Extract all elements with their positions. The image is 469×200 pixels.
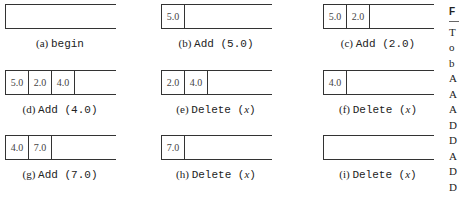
- caption-argument: (2.0): [376, 38, 416, 50]
- panel-caption: (h) Delete (x): [161, 168, 271, 181]
- side-line: A: [449, 87, 469, 103]
- panel-i: (i) Delete (x): [323, 135, 469, 197]
- caption-operation: Delete: [353, 104, 393, 116]
- side-text-fragment: F TobAAADDADDe: [449, 4, 469, 199]
- queue-cell: 4.0: [324, 71, 347, 94]
- panel-caption: (f) Delete (x): [323, 103, 433, 116]
- queue-cell: 5.0: [324, 5, 347, 28]
- queue-array: 5.02.0: [323, 4, 434, 29]
- caption-operation: Add: [356, 38, 376, 50]
- side-line: D: [449, 133, 469, 149]
- caption-operation: Add: [194, 38, 214, 50]
- panel-a: (a) begin: [5, 4, 155, 66]
- queue-cell: 4.0: [52, 71, 75, 94]
- queue-cell: 2.0: [162, 71, 185, 94]
- queue-array: 2.04.0: [161, 70, 272, 95]
- side-line: e: [449, 195, 469, 199]
- side-line: D: [449, 164, 469, 180]
- caption-label: (d): [23, 103, 39, 115]
- panel-f: 4.0(f) Delete (x): [323, 70, 469, 132]
- caption-operation: Add: [38, 104, 58, 116]
- queue-array: 7.0: [161, 135, 272, 160]
- caption-label: (g): [23, 168, 39, 180]
- panel-caption: (d) Add (4.0): [5, 103, 115, 116]
- caption-operation: Delete: [191, 104, 231, 116]
- queue-array: 4.0: [323, 70, 434, 95]
- panel-caption: (b) Add (5.0): [161, 37, 271, 50]
- side-rule: [449, 21, 459, 22]
- caption-argument: (x): [392, 104, 417, 116]
- queue-array: 4.07.0: [5, 135, 116, 160]
- panel-caption: (a) begin: [5, 37, 115, 50]
- side-line: D: [449, 118, 469, 134]
- queue-cell: 5.0: [162, 5, 185, 28]
- caption-argument: (7.0): [58, 169, 98, 181]
- caption-operation: Delete: [192, 169, 232, 181]
- side-heading: F: [449, 4, 469, 20]
- queue-cell: 2.0: [347, 5, 370, 28]
- caption-label: (c): [341, 37, 356, 49]
- queue-cell: 5.0: [6, 71, 29, 94]
- side-line: T: [449, 25, 469, 41]
- side-lines: TobAAADDADDe: [449, 25, 469, 200]
- caption-operation: begin: [51, 38, 84, 50]
- panel-d: 5.02.04.0(d) Add (4.0): [5, 70, 155, 132]
- caption-argument: (x): [231, 169, 256, 181]
- caption-label: (e): [176, 103, 191, 115]
- panel-caption: (e) Delete (x): [161, 103, 271, 116]
- panel-caption: (i) Delete (x): [323, 168, 433, 181]
- side-line: D: [449, 180, 469, 196]
- queue-array: [5, 4, 116, 29]
- side-line: o: [449, 40, 469, 56]
- caption-argument: (5.0): [214, 38, 254, 50]
- queue-cell: 7.0: [29, 136, 52, 159]
- queue-cell: 4.0: [6, 136, 29, 159]
- panel-e: 2.04.0(e) Delete (x): [161, 70, 311, 132]
- queue-array: 5.02.04.0: [5, 70, 116, 95]
- queue-cell: 4.0: [185, 71, 208, 94]
- caption-label: (b): [179, 37, 195, 49]
- panel-caption: (c) Add (2.0): [323, 37, 433, 50]
- panel-g: 4.07.0(g) Add (7.0): [5, 135, 155, 197]
- panel-b: 5.0(b) Add (5.0): [161, 4, 311, 66]
- caption-argument: (x): [392, 169, 417, 181]
- queue-array: 5.0: [161, 4, 272, 29]
- side-line: A: [449, 102, 469, 118]
- panel-c: 5.02.0(c) Add (2.0): [323, 4, 469, 66]
- side-line: b: [449, 56, 469, 72]
- caption-operation: Add: [38, 169, 58, 181]
- side-line: A: [449, 71, 469, 87]
- queue-cell: 2.0: [29, 71, 52, 94]
- queue-array: [323, 135, 434, 160]
- caption-argument: (4.0): [58, 104, 98, 116]
- caption-label: (f): [339, 103, 353, 115]
- caption-operation: Delete: [352, 169, 392, 181]
- panel-caption: (g) Add (7.0): [5, 168, 115, 181]
- caption-label: (a): [36, 37, 51, 49]
- caption-label: (i): [339, 168, 352, 180]
- queue-cell: 7.0: [162, 136, 185, 159]
- caption-argument: (x): [231, 104, 256, 116]
- panel-h: 7.0(h) Delete (x): [161, 135, 311, 197]
- side-line: A: [449, 149, 469, 165]
- caption-label: (h): [176, 168, 192, 180]
